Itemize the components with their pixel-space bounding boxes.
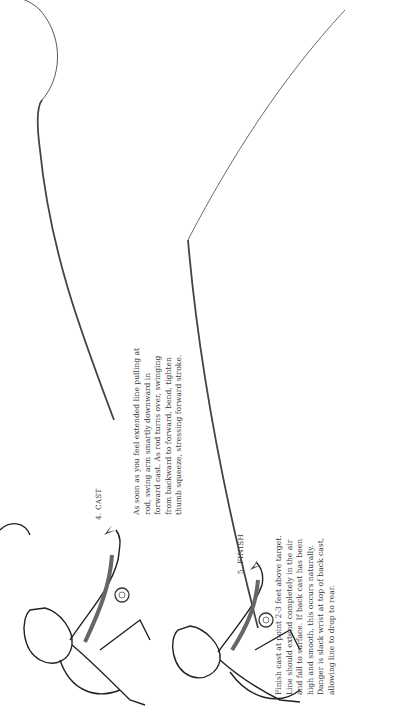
text-line: forward cast. As rod turns over, swingin…: [153, 348, 164, 515]
text-line: thumb squeeze, stressing forward stroke.: [174, 348, 185, 515]
text-line: and fall to surface. If back cast has be…: [295, 535, 306, 695]
arrow-icon: [104, 525, 116, 535]
text-line: Line should extend completely in the air: [285, 535, 296, 695]
reel-icon: [115, 588, 129, 602]
arm-arrow-cast: [85, 555, 112, 642]
step-label-cast: 4. CAST: [94, 488, 103, 520]
text-line: Danger is slack wrist at top of back cas…: [316, 535, 327, 695]
step-label-finish: 5. FINISH: [236, 534, 245, 574]
text-line: from backward to forward, bend, tighten: [164, 348, 175, 515]
text-line: Finish cast at point 2-3 feet above targ…: [274, 535, 285, 695]
text-line: As soon as you feel extended line pullin…: [132, 348, 143, 515]
caster-figure-cast: [0, 524, 150, 705]
text-line: allowing line to drop to rear.: [327, 535, 338, 695]
text-line: rod, swing arm smartly downward in: [143, 348, 154, 515]
cast-rod-and-line: [0, 0, 114, 420]
reel-icon: [259, 613, 273, 627]
step-description-cast: As soon as you feel extended line pullin…: [132, 348, 185, 515]
step-description-finish: Finish cast at point 2-3 feet above targ…: [274, 535, 338, 695]
text-line: high and smooth, this occurs naturally.: [306, 535, 317, 695]
